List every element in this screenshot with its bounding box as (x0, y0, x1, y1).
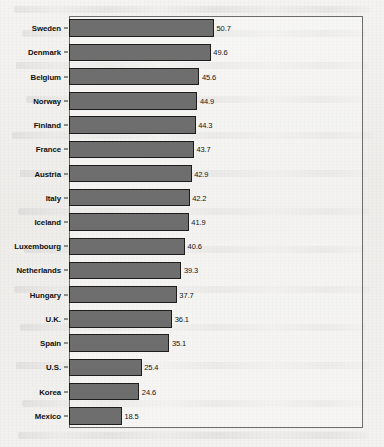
category-axis-tick (64, 343, 68, 344)
category-label-u-s: U.S. (46, 363, 61, 372)
bar-value-label: 25.4 (144, 363, 158, 372)
bar-france (69, 141, 194, 158)
bar-u-s (69, 359, 142, 376)
category-axis-tick (64, 221, 68, 222)
horizontal-bar-chart: SwedenDenmarkBelgiumNorwayFinlandFranceA… (0, 0, 384, 447)
bar-denmark (69, 44, 211, 61)
bar-row: 43.7 (69, 141, 363, 158)
category-label-netherlands: Netherlands (16, 266, 61, 275)
category-label-finland: Finland (34, 121, 61, 130)
bar-hungary (69, 286, 177, 303)
category-axis-tick (64, 294, 68, 295)
category-label-korea: Korea (39, 387, 61, 396)
category-label-norway: Norway (33, 96, 61, 105)
category-label-slot: Denmark (0, 40, 61, 64)
bar-value-label: 36.1 (175, 314, 189, 323)
bar-luxembourg (69, 238, 185, 255)
category-label-slot: Korea (0, 380, 61, 404)
bar-row: 42.9 (69, 165, 363, 182)
bar-belgium (69, 68, 199, 85)
category-axis-tick (64, 76, 68, 77)
category-axis-tick (64, 100, 68, 101)
bar-row: 44.3 (69, 116, 363, 133)
bar-row: 37.7 (69, 286, 363, 303)
bar-spain (69, 334, 169, 351)
bar-row: 42.2 (69, 189, 363, 206)
bar-row: 41.9 (69, 213, 363, 230)
bar-row: 39.3 (69, 262, 363, 279)
category-label-slot: U.K. (0, 307, 61, 331)
bar-u-k (69, 310, 172, 327)
bar-row: 25.4 (69, 359, 363, 376)
category-label-hungary: Hungary (30, 290, 61, 299)
category-label-sweden: Sweden (32, 24, 61, 33)
bar-row: 18.5 (69, 407, 363, 424)
bar-iceland (69, 213, 189, 230)
category-label-luxembourg: Luxembourg (14, 242, 61, 251)
category-axis-tick (64, 52, 68, 53)
category-label-mexico: Mexico (35, 411, 61, 420)
bar-value-label: 44.3 (198, 121, 212, 130)
bar-row: 45.6 (69, 68, 363, 85)
bar-row: 44.9 (69, 92, 363, 109)
bar-value-label: 18.5 (124, 411, 138, 420)
category-axis-tick (64, 318, 68, 319)
bar-row: 35.1 (69, 334, 363, 351)
category-label-austria: Austria (34, 169, 61, 178)
category-label-slot: Netherlands (0, 258, 61, 282)
category-axis-tick (64, 28, 68, 29)
bar-series-layer: 50.749.645.644.944.343.742.942.241.940.6… (69, 16, 363, 428)
bar-value-label: 43.7 (196, 145, 210, 154)
category-label-slot: Sweden (0, 16, 61, 40)
category-label-slot: Belgium (0, 64, 61, 88)
category-label-belgium: Belgium (31, 72, 61, 81)
bar-value-label: 39.3 (184, 266, 198, 275)
bar-finland (69, 116, 196, 133)
bar-row: 36.1 (69, 310, 363, 327)
bar-row: 40.6 (69, 238, 363, 255)
bar-sweden (69, 19, 214, 36)
category-label-slot: Hungary (0, 283, 61, 307)
category-axis-tick (64, 391, 68, 392)
category-axis-tick (64, 197, 68, 198)
bar-norway (69, 92, 197, 109)
category-axis-tick (64, 149, 68, 150)
category-label-slot: Finland (0, 113, 61, 137)
category-label-slot: France (0, 137, 61, 161)
category-axis-tick (64, 367, 68, 368)
category-label-slot: Mexico (0, 404, 61, 428)
category-axis-labels: SwedenDenmarkBelgiumNorwayFinlandFranceA… (0, 16, 69, 428)
category-axis-tick (64, 415, 68, 416)
bar-value-label: 44.9 (200, 96, 214, 105)
category-label-u-k: U.K. (46, 314, 61, 323)
bar-austria (69, 165, 192, 182)
bar-value-label: 40.6 (188, 242, 202, 251)
category-axis-tick (64, 173, 68, 174)
bar-value-label: 50.7 (217, 24, 231, 33)
bar-value-label: 41.9 (191, 217, 205, 226)
bar-row: 24.6 (69, 383, 363, 400)
category-label-slot: Iceland (0, 210, 61, 234)
bar-value-label: 49.6 (213, 48, 227, 57)
category-label-denmark: Denmark (28, 48, 61, 57)
bar-value-label: 45.6 (202, 72, 216, 81)
bar-row: 49.6 (69, 44, 363, 61)
category-label-spain: Spain (40, 339, 61, 348)
category-label-slot: Luxembourg (0, 234, 61, 258)
category-axis-tick (64, 125, 68, 126)
category-label-slot: Italy (0, 186, 61, 210)
category-axis-tick (64, 246, 68, 247)
category-label-slot: U.S. (0, 355, 61, 379)
bar-korea (69, 383, 139, 400)
category-label-slot: Austria (0, 161, 61, 185)
category-label-slot: Spain (0, 331, 61, 355)
category-label-italy: Italy (46, 193, 61, 202)
bar-row: 50.7 (69, 19, 363, 36)
bar-mexico (69, 407, 122, 424)
bar-value-label: 42.2 (192, 193, 206, 202)
bar-netherlands (69, 262, 181, 279)
category-label-slot: Norway (0, 89, 61, 113)
bar-italy (69, 189, 190, 206)
category-label-france: France (36, 145, 61, 154)
bar-value-label: 37.7 (179, 290, 193, 299)
